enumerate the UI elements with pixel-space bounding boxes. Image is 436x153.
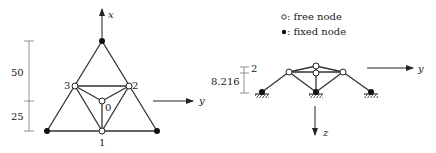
node-label-0: 0 <box>105 102 111 113</box>
legend: : free node : fixed node <box>282 11 346 37</box>
free-node-3 <box>72 83 78 89</box>
support-right <box>364 89 378 98</box>
node-label-3: 3 <box>64 80 70 91</box>
y-axis-label-right: y <box>417 63 424 74</box>
dimension-8216: 8.216 <box>211 76 240 87</box>
x-axis-label: x <box>108 9 114 20</box>
z-axis-label: z <box>322 127 329 138</box>
free-node-side-left <box>286 69 292 75</box>
legend-free-label: : free node <box>287 11 342 22</box>
fixed-node-top <box>99 38 105 44</box>
dimension-25: 25 <box>11 111 24 122</box>
legend-fixed-label: : fixed node <box>287 26 346 37</box>
free-node-legend-icon <box>282 15 286 19</box>
dimension-2: 2 <box>251 63 257 74</box>
support-left <box>255 89 269 98</box>
fixed-node-bottom-right <box>154 128 160 134</box>
y-axis-label-left: y <box>198 95 205 106</box>
support-center <box>309 89 323 98</box>
dimension-50: 50 <box>11 67 24 78</box>
fixed-node-legend-icon <box>282 30 286 34</box>
node-label-2: 2 <box>132 80 138 91</box>
free-node-side-middle <box>313 70 319 76</box>
fixed-node-bottom-left <box>44 128 50 134</box>
free-node-side-right <box>340 69 346 75</box>
left-truss-top-view: x y 50 25 0 1 <box>11 9 205 148</box>
free-node-side-top <box>313 63 319 69</box>
node-label-1: 1 <box>99 137 105 148</box>
truss-diagram: x y 50 25 0 1 <box>0 0 436 153</box>
free-node-1 <box>99 128 105 134</box>
right-truss-side-view: 8.216 2 <box>211 63 424 138</box>
